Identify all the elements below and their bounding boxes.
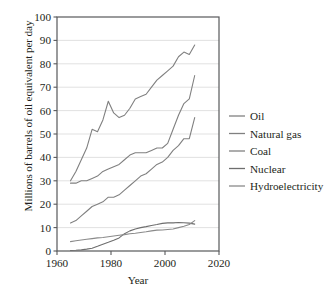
legend-label-natural-gas: Natural gas — [250, 128, 301, 140]
series-line-oil — [71, 45, 195, 181]
series-line-nuclear — [71, 222, 195, 250]
legend-label-nuclear: Nuclear — [250, 163, 286, 175]
y-tick-label: 90 — [40, 34, 52, 46]
y-tick-label: 100 — [34, 11, 51, 23]
y-tick-label: 60 — [40, 105, 52, 117]
series-line-natural-gas — [71, 118, 195, 223]
y-tick-label: 50 — [40, 128, 52, 140]
gridlines — [57, 40, 219, 227]
x-tick-label: 1980 — [100, 257, 123, 269]
chart-legend: OilNatural gasCoalNuclearHydroelectricit… — [229, 110, 324, 192]
y-tick-label: 80 — [40, 58, 52, 70]
data-series-lines — [71, 45, 195, 250]
chart-container: Millions of barrels of oil equivalent pe… — [0, 0, 336, 294]
legend-label-oil: Oil — [250, 110, 264, 122]
series-line-coal — [71, 76, 195, 184]
y-tick-label: 40 — [40, 151, 52, 163]
x-axis-ticks: 1960198020002020 — [46, 251, 231, 269]
x-tick-label: 1960 — [46, 257, 69, 269]
legend-label-coal: Coal — [250, 145, 271, 157]
y-tick-label: 10 — [40, 222, 52, 234]
series-line-hydroelectricity — [71, 221, 195, 242]
y-tick-label: 70 — [40, 81, 52, 93]
y-tick-label: 30 — [40, 175, 52, 187]
legend-label-hydroelectricity: Hydroelectricity — [250, 180, 324, 192]
y-axis-ticks: 0102030405060708090100 — [34, 11, 57, 257]
y-tick-label: 0 — [45, 245, 51, 257]
x-tick-label: 2000 — [154, 257, 177, 269]
chart-svg: 0102030405060708090100 1960198020002020 … — [0, 0, 336, 294]
y-tick-label: 20 — [40, 198, 52, 210]
x-tick-label: 2020 — [208, 257, 231, 269]
